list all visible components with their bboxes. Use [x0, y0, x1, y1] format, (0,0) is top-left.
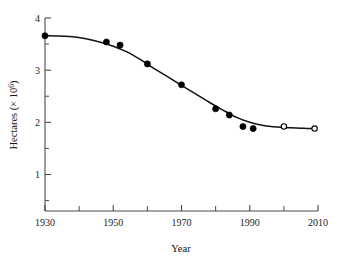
data-point-filled [240, 123, 246, 129]
chart-figure: 1234 19301950197019902010 Year Hectares … [0, 0, 338, 263]
data-point-filled [250, 125, 256, 131]
x-tick-label: 1930 [35, 217, 55, 228]
scatter-plot-svg: 1234 19301950197019902010 Year Hectares … [0, 0, 338, 263]
y-tick-label: 3 [35, 65, 40, 76]
y-tick-label: 4 [35, 13, 40, 24]
x-tick-label: 1990 [240, 217, 260, 228]
data-point-filled [42, 33, 48, 39]
data-point-open [281, 124, 286, 129]
x-tick-label: 1950 [103, 217, 123, 228]
y-tick-label: 2 [35, 117, 40, 128]
data-point-filled [117, 42, 123, 48]
data-point-filled [144, 61, 150, 67]
data-point-filled [213, 106, 219, 112]
data-point-filled [226, 112, 232, 118]
data-point-filled [178, 82, 184, 88]
data-point-open [312, 126, 317, 131]
y-axis-title: Hectares (× 106) [7, 80, 20, 150]
y-tick-label: 1 [35, 169, 40, 180]
x-tick-label: 2010 [308, 217, 328, 228]
data-point-filled [103, 39, 109, 45]
x-axis-title: Year [171, 243, 191, 254]
x-tick-label: 1970 [172, 217, 192, 228]
